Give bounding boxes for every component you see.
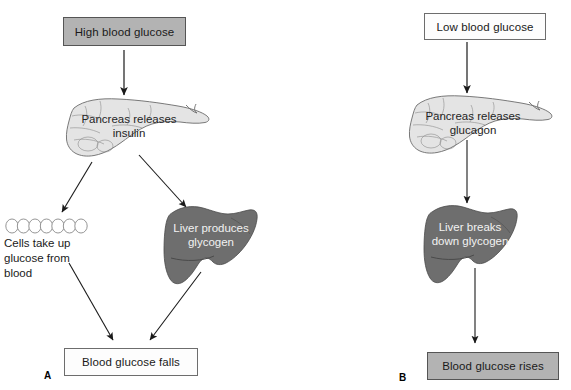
cells-caption: Cells take up glucose from blood — [4, 236, 114, 281]
liver-caption-a-line1: Liver produces — [163, 221, 259, 235]
box-blood-glucose-rises-label: Blood glucose rises — [442, 360, 544, 372]
pancreas-caption-b-line1: Pancreas releases — [418, 109, 528, 123]
liver-caption-a: Liver produces glycogen — [163, 221, 259, 249]
panel-b-artwork — [380, 0, 571, 390]
panel-b-letter: B — [399, 372, 406, 383]
box-blood-glucose-rises[interactable]: Blood glucose rises — [427, 352, 559, 380]
liver-caption-a-line2: glycogen — [163, 235, 259, 249]
diagram-canvas: High blood glucose Blood glucose falls P… — [0, 0, 571, 390]
box-low-blood-glucose[interactable]: Low blood glucose — [424, 13, 546, 40]
panel-a: High blood glucose Blood glucose falls P… — [0, 0, 290, 390]
pancreas-caption-a-line1: Pancreas releases — [74, 112, 184, 126]
pancreas-caption-b: Pancreas releases glucagon — [418, 109, 528, 137]
cells-caption-line1: Cells take up — [4, 236, 114, 251]
panel-a-artwork — [0, 0, 290, 390]
cells-caption-line2: glucose from — [4, 251, 114, 266]
box-high-blood-glucose[interactable]: High blood glucose — [63, 17, 186, 46]
panel-a-letter: A — [44, 370, 51, 381]
box-low-blood-glucose-label: Low blood glucose — [437, 21, 534, 33]
liver-caption-b-line1: Liver breaks — [422, 220, 518, 234]
pancreas-caption-a-line2: insulin — [74, 126, 184, 140]
arrow-pancreas-to-liver — [139, 155, 186, 207]
arrow-liver-to-endbox — [150, 272, 201, 340]
box-high-blood-glucose-label: High blood glucose — [75, 26, 175, 38]
arrow-pancreas-to-cells — [62, 162, 92, 212]
pancreas-caption-a: Pancreas releases insulin — [74, 112, 184, 140]
cells-row-icon — [6, 219, 87, 233]
box-blood-glucose-falls[interactable]: Blood glucose falls — [64, 348, 198, 376]
liver-caption-b: Liver breaks down glycogen — [422, 220, 518, 248]
liver-caption-b-line2: down glycogen — [422, 234, 518, 248]
cells-caption-line3: blood — [4, 266, 114, 281]
panel-b: Low blood glucose Blood glucose rises Pa… — [380, 0, 571, 390]
box-blood-glucose-falls-label: Blood glucose falls — [82, 356, 180, 368]
pancreas-caption-b-line2: glucagon — [418, 123, 528, 137]
